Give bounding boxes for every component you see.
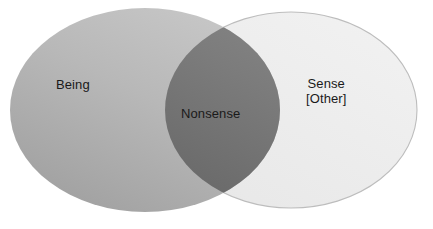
venn-label-nonsense: Nonsense [181, 106, 240, 121]
venn-diagram: Being Nonsense Sense [Other] [0, 0, 433, 229]
venn-label-other: [Other] [306, 91, 346, 106]
venn-label-sense: Sense [306, 76, 346, 91]
venn-label-being: Being [56, 77, 90, 92]
venn-label-right-group: Sense [Other] [306, 76, 346, 106]
